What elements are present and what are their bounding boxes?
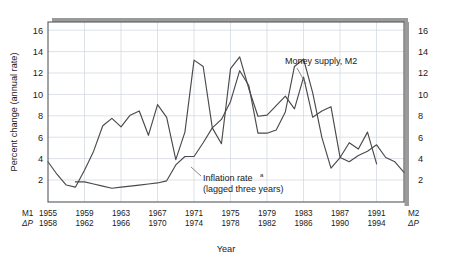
y-tick-left-8: 8: [38, 111, 43, 121]
y-tick-left-10: 10: [33, 90, 43, 100]
x-tick-dp-1958: 1958: [39, 219, 58, 228]
y-axis-title: Percent change (annual rate): [9, 52, 19, 171]
y-tick-right-12: 12: [418, 68, 428, 78]
frame-shadow-right: [405, 22, 410, 206]
annotation-money-supply-m2: Money supply, M2: [285, 56, 357, 66]
y-tick-right-4: 4: [418, 154, 423, 164]
y-tick-right-6: 6: [418, 133, 423, 143]
y-tick-right-16: 16: [418, 26, 428, 36]
axis-corner-label-delta-p-left: ΔP: [21, 219, 33, 228]
x-tick-m1-1955: 1955: [39, 209, 58, 218]
y-tick-left-16: 16: [33, 26, 43, 36]
x-tick-m1-1987: 1987: [331, 209, 350, 218]
x-axis-title: Year: [217, 244, 236, 254]
x-tick-dp-1986: 1986: [294, 219, 313, 228]
x-tick-dp-1982: 1982: [258, 219, 277, 228]
y-axis-left-ticks: 16 14 12 10 8 6 4 2: [33, 26, 43, 186]
y-tick-left-6: 6: [38, 133, 43, 143]
x-tick-m1-1959: 1959: [75, 209, 94, 218]
figure-container: 16 14 12 10 8 6 4 2 16 14 12 10 8 6 4 2 …: [0, 0, 468, 270]
x-tick-m1-1975: 1975: [221, 209, 240, 218]
axis-corner-label-m2: M2: [408, 209, 420, 218]
y-tick-left-2: 2: [38, 175, 43, 185]
y-tick-left-14: 14: [33, 47, 43, 57]
x-tick-dp-1966: 1966: [112, 219, 131, 228]
axis-corner-label-delta-p-right: ΔP: [407, 219, 419, 228]
y-tick-left-4: 4: [38, 154, 43, 164]
annotation-inflation-rate-line1: Inflation rate: [203, 173, 253, 183]
x-axis-ticks-m1: 1955 1959 1963 1967 1971 1975 1979 1983 …: [39, 209, 386, 218]
x-tick-dp-1974: 1974: [185, 219, 204, 228]
x-tick-dp-1962: 1962: [75, 219, 94, 228]
x-tick-dp-1990: 1990: [331, 219, 350, 228]
x-tick-m1-1979: 1979: [258, 209, 277, 218]
y-tick-right-14: 14: [418, 47, 428, 57]
y-axis-right-ticks: 16 14 12 10 8 6 4 2: [418, 26, 428, 186]
x-axis-ticks-delta-p: 1958 1962 1966 1970 1974 1978 1982 1986 …: [39, 219, 386, 228]
x-tick-m1-1983: 1983: [294, 209, 313, 218]
x-tick-m1-1971: 1971: [185, 209, 204, 218]
y-tick-left-12: 12: [33, 68, 43, 78]
x-tick-dp-1978: 1978: [221, 219, 240, 228]
x-tick-m1-1991: 1991: [367, 209, 386, 218]
y-tick-right-8: 8: [418, 111, 423, 121]
x-tick-dp-1994: 1994: [367, 219, 386, 228]
annotation-inflation-rate-line2: (lagged three years): [203, 184, 284, 194]
money-supply-inflation-chart: 16 14 12 10 8 6 4 2 16 14 12 10 8 6 4 2 …: [0, 0, 468, 270]
x-tick-m1-1963: 1963: [112, 209, 131, 218]
x-tick-dp-1970: 1970: [148, 219, 167, 228]
x-tick-m1-1967: 1967: [148, 209, 167, 218]
y-tick-right-2: 2: [418, 175, 423, 185]
y-tick-right-10: 10: [418, 90, 428, 100]
axis-corner-label-m1: M1: [22, 209, 34, 218]
